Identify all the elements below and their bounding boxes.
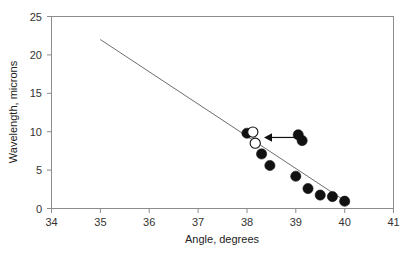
data-point bbox=[327, 191, 337, 201]
y-tick-label: 0 bbox=[36, 203, 42, 215]
data-point bbox=[303, 183, 313, 193]
plot-frame bbox=[52, 17, 394, 209]
scatter-plot: 34 35 36 37 38 39 40 41 0 5 10 15 20 25 bbox=[0, 0, 416, 254]
y-tick-label: 15 bbox=[30, 87, 42, 99]
x-tick-label: 34 bbox=[45, 216, 57, 228]
data-point bbox=[340, 196, 350, 206]
data-point bbox=[256, 149, 266, 159]
data-point bbox=[250, 138, 260, 148]
data-point bbox=[297, 135, 307, 145]
leftward-arrow-annotation bbox=[264, 133, 296, 141]
x-tick-label: 41 bbox=[387, 216, 399, 228]
y-axis-title: Wavelength, microns bbox=[7, 60, 19, 163]
data-point bbox=[265, 160, 275, 170]
data-point bbox=[248, 127, 258, 137]
data-point bbox=[315, 190, 325, 200]
x-tick-label: 35 bbox=[94, 216, 106, 228]
x-tick-label: 36 bbox=[143, 216, 155, 228]
data-point bbox=[291, 171, 301, 181]
x-axis-title: Angle, degrees bbox=[185, 233, 259, 245]
y-tick-label: 10 bbox=[30, 126, 42, 138]
trend-line bbox=[100, 40, 349, 204]
x-tick-label: 37 bbox=[192, 216, 204, 228]
x-tick-label: 40 bbox=[339, 216, 351, 228]
chart-figure: 34 35 36 37 38 39 40 41 0 5 10 15 20 25 bbox=[0, 0, 416, 254]
arrow-head bbox=[264, 133, 272, 141]
y-tick-label: 25 bbox=[30, 11, 42, 23]
x-axis-ticks bbox=[52, 209, 394, 214]
y-axis-ticks bbox=[47, 17, 52, 209]
x-axis-tick-labels: 34 35 36 37 38 39 40 41 bbox=[45, 216, 399, 228]
x-tick-label: 38 bbox=[241, 216, 253, 228]
y-axis-tick-labels: 0 5 10 15 20 25 bbox=[30, 11, 42, 215]
y-tick-label: 5 bbox=[36, 164, 42, 176]
x-tick-label: 39 bbox=[290, 216, 302, 228]
y-tick-label: 20 bbox=[30, 49, 42, 61]
